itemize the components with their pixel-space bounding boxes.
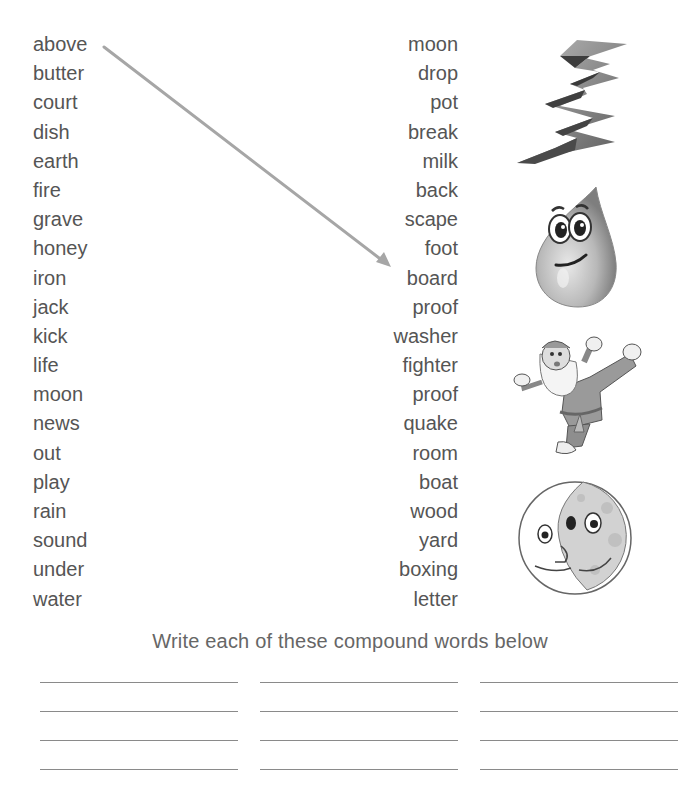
left-word-list: above butter court dish earth fire grave…: [33, 30, 88, 614]
right-word: break: [300, 118, 458, 147]
answer-line[interactable]: [40, 711, 238, 712]
left-word: dish: [33, 118, 88, 147]
right-word: foot: [300, 234, 458, 263]
right-word: boxing: [300, 555, 458, 584]
left-word: above: [33, 30, 88, 59]
answer-line[interactable]: [260, 740, 458, 741]
right-word: milk: [300, 147, 458, 176]
answer-line[interactable]: [480, 740, 678, 741]
left-word: earth: [33, 147, 88, 176]
moon-face-icon: [515, 478, 635, 598]
left-word: news: [33, 409, 88, 438]
right-word: letter: [300, 585, 458, 614]
raindrop-icon: [528, 183, 628, 313]
answer-line[interactable]: [260, 682, 458, 683]
answer-line[interactable]: [480, 682, 678, 683]
right-word: wood: [300, 497, 458, 526]
right-word: scape: [300, 205, 458, 234]
left-word: under: [33, 555, 88, 584]
right-word: back: [300, 176, 458, 205]
instruction-text: Write each of these compound words below: [0, 630, 700, 653]
left-word: kick: [33, 322, 88, 351]
left-word: rain: [33, 497, 88, 526]
right-word: proof: [300, 293, 458, 322]
right-word: room: [300, 439, 458, 468]
answer-line[interactable]: [480, 711, 678, 712]
left-word: moon: [33, 380, 88, 409]
right-word: washer: [300, 322, 458, 351]
left-word: iron: [33, 264, 88, 293]
left-word: honey: [33, 234, 88, 263]
kickboxing-santa-icon: [510, 332, 642, 460]
answer-line[interactable]: [260, 769, 458, 770]
right-word: pot: [300, 88, 458, 117]
left-word: grave: [33, 205, 88, 234]
right-word: quake: [300, 409, 458, 438]
answer-line[interactable]: [40, 682, 238, 683]
right-word: proof: [300, 380, 458, 409]
right-word: board: [300, 264, 458, 293]
right-word: boat: [300, 468, 458, 497]
left-word: fire: [33, 176, 88, 205]
left-word: life: [33, 351, 88, 380]
left-word: sound: [33, 526, 88, 555]
left-word: butter: [33, 59, 88, 88]
left-word: court: [33, 88, 88, 117]
left-word: jack: [33, 293, 88, 322]
earthquake-crack-icon: [515, 38, 630, 166]
right-word: drop: [300, 59, 458, 88]
left-word: out: [33, 439, 88, 468]
left-word: play: [33, 468, 88, 497]
right-word: moon: [300, 30, 458, 59]
answer-line[interactable]: [480, 769, 678, 770]
answer-line[interactable]: [260, 711, 458, 712]
right-word-list: moon drop pot break milk back scape foot…: [300, 30, 458, 614]
right-word: fighter: [300, 351, 458, 380]
left-word: water: [33, 585, 88, 614]
answer-line[interactable]: [40, 769, 238, 770]
answer-line[interactable]: [40, 740, 238, 741]
right-word: yard: [300, 526, 458, 555]
